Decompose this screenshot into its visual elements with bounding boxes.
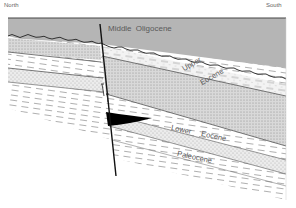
label-middle-oligocene: Middle Oligocene (108, 25, 172, 33)
geologic-cross-section: North South Middle Oligocene Upper Eocen… (0, 0, 296, 208)
north-block (8, 38, 112, 140)
label-north: North (4, 2, 19, 8)
label-south: South (266, 2, 282, 8)
